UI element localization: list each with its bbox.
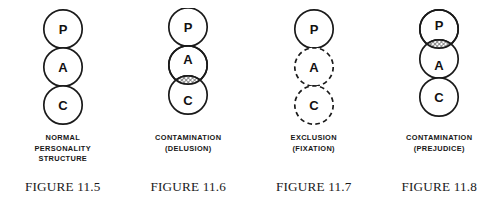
circle-parent-letter: P <box>309 22 318 37</box>
diagram-11-7: P A C <box>251 0 377 133</box>
pac-diagram-normal: P A C <box>35 8 91 128</box>
circle-adult-letter: A <box>184 52 194 67</box>
circle-child-letter: C <box>309 98 319 113</box>
pac-diagram-exclusion: P A C <box>286 8 342 128</box>
diagram-11-8: P A C <box>377 0 502 133</box>
circle-child-letter: C <box>184 93 194 108</box>
circle-parent-letter: P <box>184 20 193 35</box>
circle-child-letter: C <box>435 90 445 105</box>
circle-adult-letter: A <box>58 60 68 75</box>
figure-panel-11-7: P A C EXCLUSION (FIXATION) FIGURE 11.7 <box>251 0 377 209</box>
pac-diagram-contamination-prejudice: P A C <box>411 8 467 128</box>
diagram-11-6: P A C <box>126 0 252 133</box>
figure-caption: CONTAMINATION (DELUSION) <box>155 133 221 169</box>
circle-child-letter: C <box>58 98 68 113</box>
circle-adult-letter: A <box>435 58 445 73</box>
figure-number-label: FIGURE 11.8 <box>377 179 502 195</box>
figure-number-label: FIGURE 11.6 <box>126 179 252 195</box>
circle-parent-letter: P <box>435 18 444 33</box>
circle-parent-letter: P <box>58 22 67 37</box>
figure-caption: CONTAMINATION (PREJUDICE) <box>406 133 472 169</box>
figure-number-label: FIGURE 11.5 <box>0 179 126 195</box>
figure-row: P A C NORMAL PERSONALITY STRUCTURE FIGUR… <box>0 0 502 209</box>
figure-caption: NORMAL PERSONALITY STRUCTURE <box>35 133 91 169</box>
figure-panel-11-6: P A C CONTAMINATION (DELUSION) FIGURE 11… <box>126 0 252 209</box>
diagram-11-5: P A C <box>0 0 126 133</box>
figure-caption: EXCLUSION (FIXATION) <box>291 133 337 169</box>
figure-number-label: FIGURE 11.7 <box>251 179 377 195</box>
figure-panel-11-8: P A C CONTAMINATION (PREJUDICE) FIGURE 1… <box>377 0 502 209</box>
circle-adult-letter: A <box>309 60 319 75</box>
figure-panel-11-5: P A C NORMAL PERSONALITY STRUCTURE FIGUR… <box>0 0 126 209</box>
pac-diagram-contamination-delusion: P A C <box>160 8 216 128</box>
